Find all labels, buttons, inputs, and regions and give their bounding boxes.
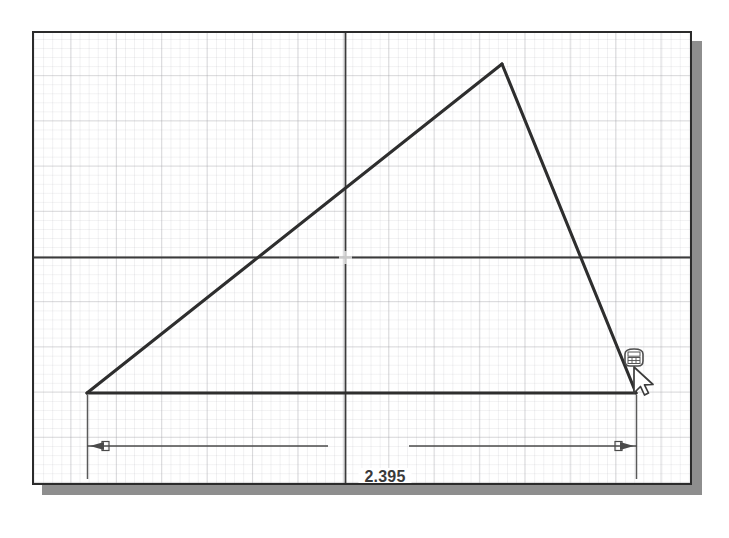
origin-marker-icon	[339, 251, 352, 264]
horizontal-linear-dimension[interactable]	[87, 395, 637, 479]
cad-application-window: 2.395	[0, 0, 729, 538]
reference-axes	[34, 33, 690, 483]
sketch-viewport[interactable]: 2.395	[32, 31, 692, 485]
triangle-edge-right[interactable]	[502, 64, 636, 393]
triangle-profile[interactable]	[87, 64, 636, 393]
dimension-value-label[interactable]: 2.395	[358, 468, 411, 485]
sketch-geometry-layer	[34, 33, 690, 483]
triangle-edge-left[interactable]	[87, 64, 502, 393]
